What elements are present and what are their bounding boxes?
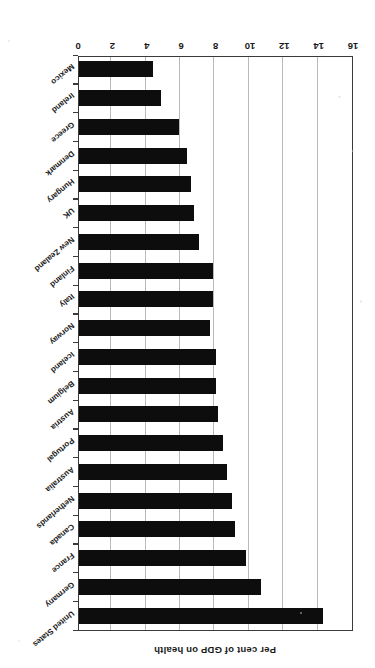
bar-row — [79, 205, 352, 221]
scan-speckle — [8, 40, 10, 42]
bar-row — [79, 263, 352, 279]
category-label: Italy — [58, 292, 76, 309]
bar — [79, 119, 179, 135]
bar — [79, 608, 323, 624]
value-tick-label: 6 — [168, 41, 194, 52]
bar-row — [79, 550, 352, 566]
bar — [79, 61, 153, 77]
bar — [79, 320, 210, 336]
category-label: Australia — [44, 465, 76, 494]
value-tick-label: 10 — [237, 41, 263, 52]
bar — [79, 521, 235, 537]
bar-row — [79, 176, 352, 192]
category-axis-labels: United StatesGermanyFranceCanadaNetherla… — [0, 0, 75, 668]
value-tick-label: 8 — [203, 41, 229, 52]
category-label: Canada — [48, 522, 76, 547]
bar — [79, 148, 187, 164]
bar — [79, 176, 191, 192]
bar — [79, 464, 227, 480]
axis-title: Per cent of GDP on health — [55, 645, 375, 656]
category-label: Ireland — [50, 91, 76, 115]
scan-speckle — [360, 300, 362, 303]
category-label: Mexico — [49, 62, 76, 86]
category-label: France — [50, 551, 76, 575]
bar-row — [79, 90, 352, 106]
bar-row — [79, 608, 352, 624]
bar-row — [79, 320, 352, 336]
value-tick-label: 16 — [340, 41, 366, 52]
plot-area — [78, 56, 353, 631]
scan-speckle — [352, 150, 354, 152]
bar — [79, 263, 213, 279]
category-label: Hungary — [45, 177, 76, 205]
bar-series — [79, 57, 352, 630]
category-label: Germany — [44, 580, 76, 609]
bar-row — [79, 234, 352, 250]
category-label: Denmark — [44, 149, 76, 178]
bar — [79, 234, 199, 250]
bar — [79, 90, 162, 106]
bar-row — [79, 378, 352, 394]
category-label: Portugal — [45, 436, 76, 464]
bar — [79, 579, 261, 595]
bar-row — [79, 119, 352, 135]
bar-row — [79, 291, 352, 307]
scan-speckle — [338, 96, 341, 98]
scanned-chart-page: Per cent of GDP on health 0246810121416 … — [0, 0, 375, 668]
category-label: Norway — [48, 321, 76, 346]
bar-row — [79, 521, 352, 537]
bar-row — [79, 464, 352, 480]
category-label: Belgium — [46, 379, 76, 406]
category-label: Iceland — [49, 350, 76, 375]
bar-chart-figure: Per cent of GDP on health 0246810121416 … — [0, 0, 375, 668]
value-tick-label: 4 — [134, 41, 160, 52]
value-tick-label: 2 — [99, 41, 125, 52]
category-label: Finland — [48, 264, 76, 289]
scan-speckle — [18, 640, 20, 642]
bar-row — [79, 61, 352, 77]
value-tick-label: 14 — [306, 41, 332, 52]
bar — [79, 205, 194, 221]
bar — [79, 406, 218, 422]
value-tick-label: 12 — [271, 41, 297, 52]
bar-row — [79, 349, 352, 365]
bar — [79, 291, 213, 307]
bar — [79, 349, 217, 365]
category-label: UK — [61, 206, 76, 220]
bar — [79, 435, 223, 451]
rotated-figure-container: Per cent of GDP on health 0246810121416 … — [0, 0, 375, 668]
scan-speckle — [300, 612, 302, 614]
bar — [79, 550, 246, 566]
category-label: Austria — [49, 407, 76, 432]
bar-row — [79, 579, 352, 595]
bar-row — [79, 435, 352, 451]
bar — [79, 493, 232, 509]
bar — [79, 378, 217, 394]
category-label: United States — [31, 609, 76, 649]
bar-row — [79, 148, 352, 164]
bar-row — [79, 493, 352, 509]
category-label: Greece — [49, 120, 76, 144]
bar-row — [79, 406, 352, 422]
